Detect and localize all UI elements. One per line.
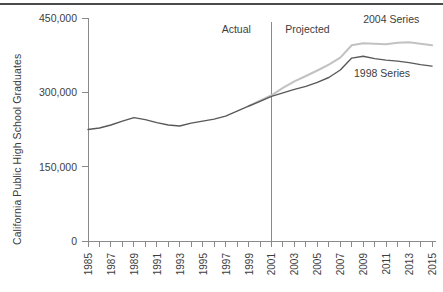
x-tick-label: 2011 [381, 253, 392, 275]
annotation-projected: Projected [285, 23, 330, 35]
annotation-1998-series: 1998 Series [354, 67, 410, 79]
annotation-2004-series: 2004 Series [363, 13, 419, 25]
x-tick-label: 1999 [244, 253, 255, 276]
line-chart: California Public High School Graduates … [0, 0, 443, 292]
x-tick-label: 1993 [175, 253, 186, 276]
chart-figure: California Public High School Graduates … [0, 0, 443, 292]
x-tick-label: 1991 [152, 253, 163, 276]
x-tick-label: 2001 [266, 253, 277, 276]
x-tick-label: 1985 [83, 253, 94, 276]
x-tick-label: 2015 [427, 253, 438, 276]
x-tick-label: 2013 [404, 253, 415, 276]
x-tick-label: 1989 [129, 253, 140, 276]
y-tick-label: 150,000 [39, 161, 77, 173]
y-axis-title: California Public High School Graduates [11, 54, 23, 245]
y-tick-label: 300,000 [39, 86, 77, 98]
x-tick-label: 1997 [221, 253, 232, 276]
top-rule-divider [0, 3, 443, 5]
x-tick-label: 1995 [198, 253, 209, 276]
y-tick-label: 0 [71, 235, 77, 247]
annotation-actual: Actual [222, 23, 251, 35]
x-tick-label: 2007 [335, 253, 346, 276]
series-lines [88, 42, 432, 129]
x-tick-label: 2005 [312, 253, 323, 276]
x-tick-label: 2003 [289, 253, 300, 276]
y-tick-label: 450,000 [39, 12, 77, 24]
x-tick-label: 1987 [106, 253, 117, 276]
x-axis-ticks: 1985198719891991199319951997199920012003… [83, 241, 438, 275]
x-tick-label: 2009 [358, 253, 369, 276]
y-axis-ticks: 0150,000300,000450,000 [39, 12, 88, 247]
